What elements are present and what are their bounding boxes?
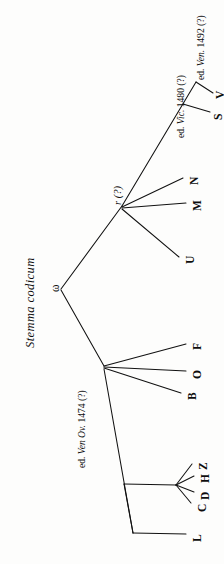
ven1474-suffix: 1474 (?) [76, 390, 87, 425]
witness-label-M: M [192, 200, 204, 211]
edge-vic1480-to-S [183, 104, 210, 112]
witness-label-S: S [213, 113, 224, 120]
edge-ven1474-to-F [104, 344, 186, 366]
vic1480-prefix: ed. [175, 124, 186, 138]
node-vic1480-label: ed. Vic. 1480 (?) [176, 75, 186, 138]
witness-label-Z: Z [198, 462, 210, 470]
edge-hub-to-Z [176, 464, 192, 485]
edge-ven1492-to-V [196, 82, 213, 93]
witness-label-D: D [200, 491, 212, 500]
edge-hub-to-H [176, 476, 194, 485]
witness-label-V: V [215, 90, 224, 99]
stemma-figure-page: Stemma codicum ω r (?) ed. Vic. 1480 (?)… [0, 0, 224, 564]
witness-label-F: F [192, 343, 204, 350]
node-ven1492-label: ed. Ven. 1492 (?) [196, 15, 206, 80]
edge-subnode-to-hub [124, 484, 176, 485]
witness-label-U: U [185, 255, 197, 264]
edge-r-to-N [122, 178, 183, 207]
witness-label-H: H [200, 474, 212, 483]
node-r-label: r (?) [113, 186, 124, 205]
ven1492-place: Ven. [195, 50, 206, 66]
edge-ven1474-to-B [104, 368, 181, 393]
witness-label-O: O [192, 370, 204, 379]
witness-label-C: C [197, 503, 209, 512]
edge-subnode-to-L [133, 533, 186, 534]
ven1492-prefix: ed. [195, 66, 206, 80]
ven1474-prefix: ed. [76, 454, 87, 468]
node-ven1474-label: ed. Ven Ov. 1474 (?) [77, 390, 87, 468]
node-omega-label: ω [50, 284, 62, 292]
edge-omega-to-r [61, 206, 122, 289]
ven1474-place: Ven Ov. [76, 425, 87, 454]
edge-subnode-vertical [124, 484, 133, 533]
vic1480-place: Vic. [175, 110, 186, 124]
edge-r-to-M [122, 203, 186, 208]
edge-omega-to-ven1474 [61, 290, 104, 366]
vic1480-suffix: 1480 (?) [175, 75, 186, 110]
witness-label-N: N [189, 176, 201, 185]
witness-label-L: L [192, 534, 204, 542]
edge-ven1474-to-O [104, 367, 186, 371]
edge-r-to-U [122, 209, 179, 257]
ven1492-suffix: 1492 (?) [195, 15, 206, 50]
witness-label-B: B [187, 392, 199, 400]
page-title: Stemma codicum [24, 257, 37, 348]
